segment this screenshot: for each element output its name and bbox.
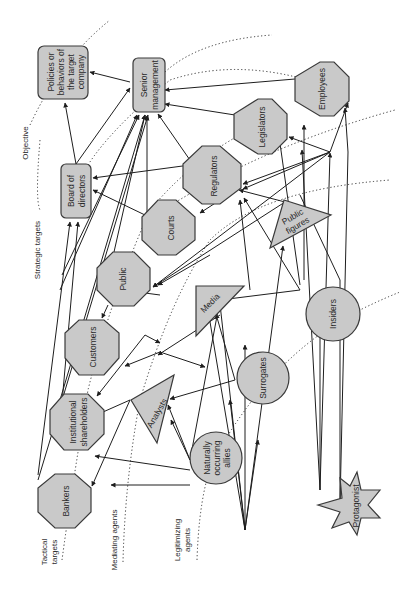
- node-naturally-occurring-allies: Naturally occurring allies: [190, 432, 242, 484]
- node-institutional-shareholders: Institutional shareholders: [50, 394, 104, 450]
- node-policies-line1: Policies or: [46, 52, 56, 91]
- node-board-of-directors: Board of directors: [61, 164, 91, 218]
- node-board-line1: Board of: [66, 174, 76, 207]
- node-policies-line4: company: [76, 54, 86, 89]
- node-surrogates-label: Surrogates: [258, 357, 268, 399]
- node-allies-line3: allies: [222, 448, 232, 467]
- ring-label-legitimizing: Legitimizing agents: [173, 519, 192, 561]
- ring-label-mediating: Mediating agents: [110, 510, 119, 571]
- node-senior-line2: management: [150, 60, 160, 110]
- node-bankers: Bankers: [38, 474, 91, 528]
- influence-diagram: Policies or behaviors of the target comp…: [0, 0, 408, 589]
- ring-label-tactical-line2: targets: [50, 540, 59, 564]
- node-senior-management: Senior management: [133, 58, 165, 112]
- node-legislators-label: Legislators: [257, 106, 267, 147]
- node-policies: Policies or behaviors of the target comp…: [38, 46, 88, 99]
- node-employees-label: Employees: [317, 68, 327, 110]
- ring-label-tactical: Tactical targets: [40, 538, 59, 565]
- node-employees: Employees: [295, 62, 349, 116]
- node-public-label: Public: [118, 267, 128, 291]
- ring-label-strategic: Strategic targets: [33, 221, 42, 279]
- node-policies-line3: the target: [66, 53, 76, 90]
- diagram-canvas: Policies or behaviors of the target comp…: [0, 0, 408, 589]
- node-senior-line1: Senior: [139, 73, 149, 98]
- ring-label-legitimizing-line1: Legitimizing: [173, 519, 182, 561]
- node-policies-line2: behaviors of: [56, 48, 66, 95]
- node-public: Public: [97, 252, 150, 306]
- node-institutional-line1: Institutional: [68, 400, 78, 443]
- node-institutional-line2: shareholders: [79, 397, 89, 446]
- node-allies-line2: occurring: [212, 440, 222, 475]
- node-legislators: Legislators: [234, 99, 287, 154]
- ring-objective-right: [165, 35, 272, 72]
- ring-label-legitimizing-line2: agents: [183, 528, 192, 552]
- node-protagonist-label: Protagonist: [351, 484, 361, 528]
- node-customers-label: Customers: [88, 326, 98, 367]
- node-bankers-label: Bankers: [61, 485, 71, 516]
- ring-label-objective: Objective: [21, 126, 30, 160]
- node-regulators-label: Regulators: [209, 155, 219, 196]
- node-insiders-label: Insiders: [328, 299, 338, 329]
- node-board-line2: directors: [77, 175, 87, 208]
- ring-label-tactical-line1: Tactical: [40, 538, 49, 565]
- node-regulators: Regulators: [183, 146, 241, 204]
- ring-strategic: [38, 140, 41, 210]
- node-protagonist: Protagonist: [318, 472, 380, 535]
- node-insiders: Insiders: [306, 287, 360, 341]
- node-courts: Courts: [142, 200, 195, 255]
- node-surrogates: Surrogates: [237, 352, 289, 404]
- node-analysts: Analysts: [131, 375, 174, 443]
- node-customers: Customers: [65, 320, 119, 375]
- node-allies-line1: Naturally: [202, 440, 212, 474]
- node-courts-label: Courts: [166, 215, 176, 240]
